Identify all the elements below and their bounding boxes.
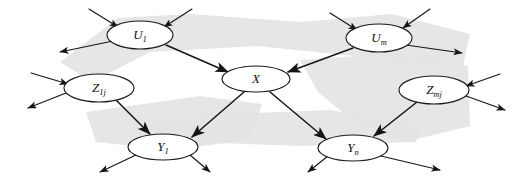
graph-nodes: U1UmXZ1jZmjY1Yn	[64, 21, 469, 161]
edge-x-to-yn	[270, 92, 326, 139]
edge-in-u1-left	[89, 9, 118, 27]
graph-edges	[116, 45, 417, 139]
graph-layer: U1UmXZ1jZmjY1Yn	[0, 0, 528, 181]
edge-um-to-x	[288, 48, 353, 72]
edge-zmj-to-yn	[374, 102, 417, 136]
edge-out-yn-left	[308, 156, 328, 172]
edge-out-yn-right	[381, 156, 440, 170]
node-u1[interactable]: U1	[107, 21, 173, 49]
node-um[interactable]: Um	[346, 24, 412, 52]
edge-in-z1j	[31, 73, 68, 84]
edge-out-y1-left	[100, 155, 136, 172]
node-yn[interactable]: Yn	[318, 135, 388, 161]
node-z1j[interactable]: Z1j	[64, 74, 134, 102]
edge-x-to-y1	[192, 92, 244, 137]
edge-u1-to-x	[166, 45, 228, 72]
edge-out-zmj	[466, 96, 505, 110]
edge-out-u1-left	[60, 41, 113, 52]
edge-out-um-right	[406, 45, 462, 53]
edge-out-y1-right	[190, 155, 210, 172]
edge-in-um-right	[403, 9, 430, 28]
edge-in-u1-right	[164, 9, 192, 27]
edge-z1j-to-y1	[116, 100, 150, 134]
edge-out-z1j	[28, 93, 66, 108]
node-zmj[interactable]: Zmj	[399, 76, 469, 104]
causal-diagram-figure: U1UmXZ1jZmjY1Yn	[0, 0, 528, 181]
edge-in-zmj	[466, 74, 500, 86]
edge-in-um-left	[330, 13, 357, 30]
node-x-label: X	[251, 70, 261, 85]
node-x[interactable]: X	[222, 66, 290, 92]
node-y1[interactable]: Y1	[128, 134, 198, 160]
